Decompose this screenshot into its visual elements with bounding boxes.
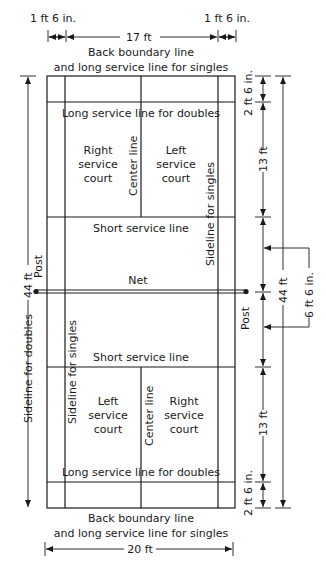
badminton-court-diagram: 1 ft 6 in. 1 ft 6 in. 17 ft Back boundar… (0, 0, 326, 566)
left-total-length-label: 44 ft (22, 272, 35, 298)
singles-width-dim-label: 17 ft (126, 31, 152, 44)
bottom-service-depth-label: 13 ft (257, 410, 270, 436)
upper-left-court-l1: Left (166, 144, 187, 157)
upper-left-court-l2: service (156, 158, 196, 171)
court-width-label: 20 ft (127, 543, 153, 556)
court-lines (47, 76, 235, 508)
right-post-label: Post (239, 306, 252, 330)
upper-long-service-doubles-label: Long service line for doubles (62, 107, 220, 120)
upper-right-court-l3: court (84, 172, 113, 185)
bottom-back-boundary-label-1: Back boundary line (88, 512, 194, 525)
bottom-dimensions: Back boundary line and long service line… (45, 512, 233, 556)
left-alley-dim-label: 1 ft 6 in. (30, 12, 76, 25)
lower-right-court-l3: court (170, 423, 199, 436)
net-label: Net (128, 274, 148, 287)
top-dimensions: 1 ft 6 in. 1 ft 6 in. 17 ft Back boundar… (30, 12, 250, 74)
lower-right-court-l1: Right (170, 395, 200, 408)
lower-center-line-label: Center line (143, 385, 156, 446)
upper-right-court-l2: service (78, 158, 118, 171)
lower-left-court-l1: Left (98, 395, 119, 408)
doubles-sideline-label: Sideline for doubles (22, 314, 35, 423)
right-post-icon (243, 289, 248, 294)
lower-left-court-l2: service (88, 409, 128, 422)
upper-center-line-label: Center line (127, 135, 140, 196)
lower-right-court-l2: service (164, 409, 204, 422)
top-back-depth-label: 2 ft 6 in. (242, 70, 255, 116)
right-alley-dim-label: 1 ft 6 in. (204, 12, 250, 25)
left-dimensions: 44 ft Sideline for doubles (20, 76, 36, 507)
upper-left-court-l3: court (162, 172, 191, 185)
top-back-boundary-label-1: Back boundary line (88, 46, 194, 59)
bottom-back-boundary-label-2: and long service line for singles (54, 527, 229, 540)
lower-long-service-doubles-label: Long service line for doubles (62, 466, 220, 479)
service-gap-label: 6 ft 6 in. (303, 272, 316, 318)
top-back-boundary-label-2: and long service line for singles (54, 61, 229, 74)
upper-singles-sideline-label: Sideline for singles (204, 162, 217, 266)
right-total-length-label: 44 ft (277, 277, 290, 303)
top-service-depth-label: 13 ft (257, 146, 270, 172)
lower-short-service-label: Short service line (93, 351, 189, 364)
upper-right-court-l1: Right (84, 144, 114, 157)
bottom-back-depth-label: 2 ft 6 in. (242, 470, 255, 516)
lower-left-court-l3: court (94, 423, 123, 436)
right-dimensions: 2 ft 6 in. 13 ft 13 ft 2 ft 6 in. 44 ft … (242, 70, 316, 516)
upper-short-service-label: Short service line (93, 222, 189, 235)
lower-singles-sideline-label: Sideline for singles (66, 320, 79, 424)
